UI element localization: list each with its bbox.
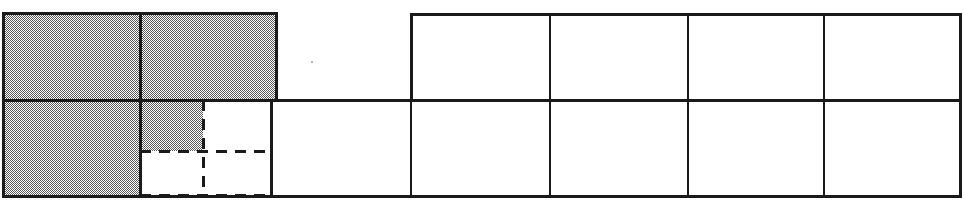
cell-left-bottom-inner-shaded [140,100,203,151]
scan-speck-artifact [311,61,313,63]
cell-grid-top-1 [411,14,550,100]
cell-grid-bottom-1 [411,100,550,196]
cell-grid-top-4 [824,14,960,100]
cell-grid-top-3 [688,14,824,100]
cell-grid-bottom-2 [550,100,688,196]
cell-left-bottom-left [3,100,140,196]
cell-grid-bottom-4 [824,100,960,196]
cell-grid-bottom-3 [688,100,824,196]
cell-left-top-left [3,13,140,100]
area-model-figure: Area model: shaded and unshaded rectangl… [0,0,964,204]
cell-left-bottom-open [203,100,271,151]
left-shaded-block [3,13,276,196]
cell-left-bottom-void [140,151,271,196]
diagram-root: Area model: shaded and unshaded rectangl… [0,0,964,204]
cell-grid-bottom-0 [271,100,411,196]
cell-left-top-right [140,13,276,100]
cell-grid-top-2 [550,14,688,100]
